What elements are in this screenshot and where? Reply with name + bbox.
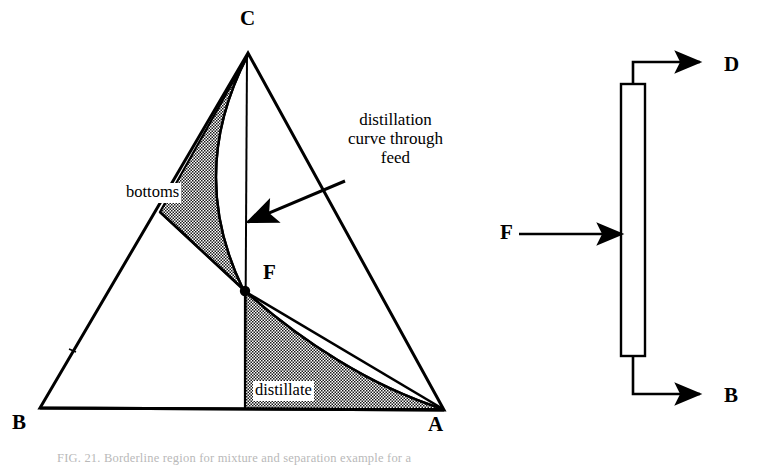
column-flowsheet: [519, 62, 700, 394]
figure-canvas: [0, 0, 764, 467]
distillation-column-body: [621, 84, 645, 356]
feed-point-marker: [240, 286, 250, 296]
column-stream-label-d: D: [724, 54, 739, 75]
ternary-vertex-label-c: C: [240, 8, 255, 29]
triangle-base-edge: [40, 408, 444, 410]
distillation-curve-annotation: distillation curve through feed: [333, 110, 458, 167]
ternary-vertex-label-a: A: [428, 414, 443, 435]
column-stream-label-b: B: [724, 385, 738, 406]
ternary-vertex-label-b: B: [12, 412, 26, 433]
column-stream-label-f: F: [500, 222, 513, 243]
distillate-region-label: distillate: [253, 381, 314, 401]
distillate-stream-line: [633, 62, 700, 84]
bottoms-stream-line: [633, 356, 700, 394]
ternary-triangle-outline: [40, 53, 444, 410]
bottoms-region-label: bottoms: [124, 183, 181, 203]
ternary-diagram: [40, 53, 444, 410]
feed-point-label-f: F: [263, 262, 276, 283]
figure-caption: FIG. 21. Borderline region for mixture a…: [57, 452, 717, 466]
figure-container: C B A F bottoms distillate distillation …: [0, 0, 764, 467]
